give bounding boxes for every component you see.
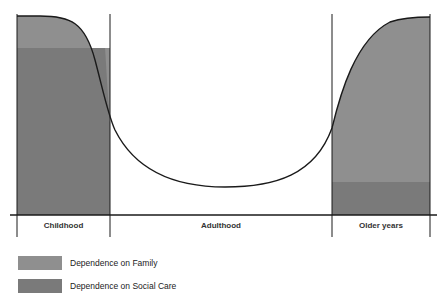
older-social-care-area [332, 182, 430, 215]
legend-item-family: Dependence on Family [18, 256, 157, 270]
legend-swatch-family [18, 256, 62, 270]
legend-swatch-social-care [18, 279, 62, 293]
stage-label-childhood: Childhood [17, 221, 110, 230]
childhood-social-care-area [17, 48, 110, 215]
legend-label-family: Dependence on Family [70, 258, 157, 268]
stage-label-adulthood: Adulthood [110, 221, 332, 230]
stage-label-older-years: Older years [332, 221, 430, 230]
legend-item-social-care: Dependence on Social Care [18, 279, 176, 293]
older-family-area [332, 17, 430, 182]
legend-label-social-care: Dependence on Social Care [70, 281, 176, 291]
